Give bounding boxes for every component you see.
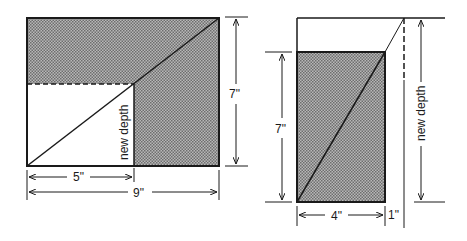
width-label: 9" [133, 186, 144, 200]
height-label: 7" [275, 122, 286, 136]
extension-slope [385, 18, 404, 52]
width-label: 4" [331, 209, 342, 223]
new-depth-label: new depth [414, 86, 428, 141]
depth-diagram: new depth 7" 5" 9" 7" [0, 0, 467, 241]
inner-new-depth-label: new depth [117, 105, 131, 160]
height-label: 7" [229, 87, 240, 101]
partial-width-label: 5" [73, 170, 84, 184]
right-figure: 7" new depth 4" 1" [265, 18, 445, 228]
left-figure: new depth 7" 5" 9" [27, 17, 248, 200]
extension-label: 1" [388, 208, 399, 222]
